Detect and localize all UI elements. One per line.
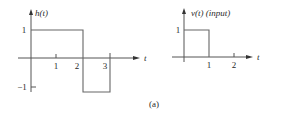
h-xlabel: t (144, 53, 147, 63)
v-t-axis-arrow-icon (246, 55, 253, 59)
v-y-axis-arrow-icon (182, 8, 186, 14)
h-xtick-label-1: 1 (54, 61, 59, 71)
plot-v: v(t) (input) t 1 1 2 (172, 8, 260, 70)
v-xtick-label-1: 1 (207, 60, 212, 70)
figure-canvas: h(t) t 1 −1 1 2 3 v(t) (input) t 1 1 2 (… (0, 0, 288, 125)
h-ytick-label-neg1: −1 (17, 82, 27, 92)
h-ytick-label-1: 1 (22, 25, 27, 35)
v-xtick-label-2: 2 (232, 60, 237, 70)
h-t-axis-arrow-icon (133, 56, 140, 60)
h-signal-curve (31, 30, 110, 92)
h-xtick-label-2: 2 (75, 61, 80, 71)
v-ytick-label-1: 1 (176, 25, 181, 35)
h-ylabel: h(t) (35, 8, 48, 18)
v-ylabel: v(t) (input) (191, 8, 230, 18)
v-signal-curve (184, 30, 209, 57)
h-xtick-label-3: 3 (103, 61, 108, 71)
v-xlabel: t (257, 52, 260, 62)
plot-h: h(t) t 1 −1 1 2 3 (17, 8, 147, 92)
figure-caption: (a) (149, 99, 159, 109)
h-y-axis-arrow-icon (29, 9, 33, 15)
